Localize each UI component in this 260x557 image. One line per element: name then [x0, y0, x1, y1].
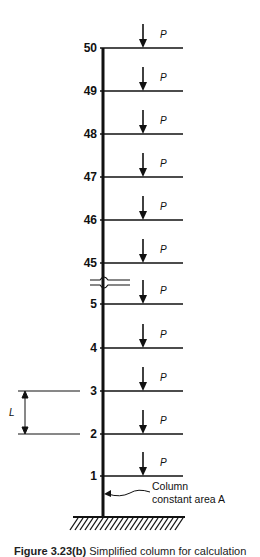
arrowhead-icon [139, 425, 147, 434]
floor-label: 1 [90, 469, 97, 483]
column-note-line2: constant area A [152, 493, 225, 505]
break-symbol [90, 277, 130, 288]
caption-text: Simplified column for calculation [89, 545, 246, 557]
floor-label: 48 [84, 127, 98, 141]
floor-47: 47P [84, 153, 183, 184]
load-label: P [160, 72, 167, 83]
figure-caption: Figure 3.23(b) Simplified column for cal… [14, 545, 246, 557]
floor-label: 4 [90, 341, 97, 355]
floor-49: 49P [84, 67, 183, 98]
figure-number: Figure 3.23(b) [14, 545, 86, 557]
load-label: P [160, 201, 167, 212]
floor-50: 50P [84, 24, 183, 55]
floor-label: 2 [90, 427, 97, 441]
dimension-L [18, 391, 80, 434]
arrowhead-icon [139, 125, 147, 134]
arrowhead-icon [139, 254, 147, 263]
load-label: P [160, 115, 167, 126]
arrowhead-icon [139, 39, 147, 48]
floor-label: 47 [84, 170, 98, 184]
load-label: P [160, 285, 167, 296]
floor-45: 45P [84, 239, 183, 270]
load-label: P [160, 244, 167, 255]
floor-48: 48P [84, 110, 183, 141]
load-label: P [160, 457, 167, 468]
arrowhead-icon [139, 211, 147, 220]
floor-label: 3 [90, 384, 97, 398]
dimension-label: L [9, 407, 15, 418]
leader-arrowhead [104, 490, 111, 497]
floor-label: 46 [84, 213, 98, 227]
ground-hatch [70, 518, 183, 530]
floor-label: 50 [84, 41, 98, 55]
column-leader [108, 490, 150, 496]
load-label: P [160, 372, 167, 383]
load-label: P [160, 29, 167, 40]
load-label: P [160, 415, 167, 426]
floor-label: 45 [84, 256, 98, 270]
arrowhead-icon [139, 82, 147, 91]
floor-label: 5 [90, 297, 97, 311]
arrowhead-icon [139, 339, 147, 348]
arrowhead-icon [139, 467, 147, 476]
arrowhead-icon [139, 168, 147, 177]
arrowhead-icon [139, 295, 147, 304]
column-note-line1: Column [152, 480, 188, 492]
floor-group: 50P49P48P47P46P45P5P4P3P2P1P [84, 24, 183, 483]
floor-label: 49 [84, 84, 98, 98]
load-label: P [160, 158, 167, 169]
arrowhead-icon [139, 382, 147, 391]
load-label: P [160, 329, 167, 340]
floor-46: 46P [84, 196, 183, 227]
